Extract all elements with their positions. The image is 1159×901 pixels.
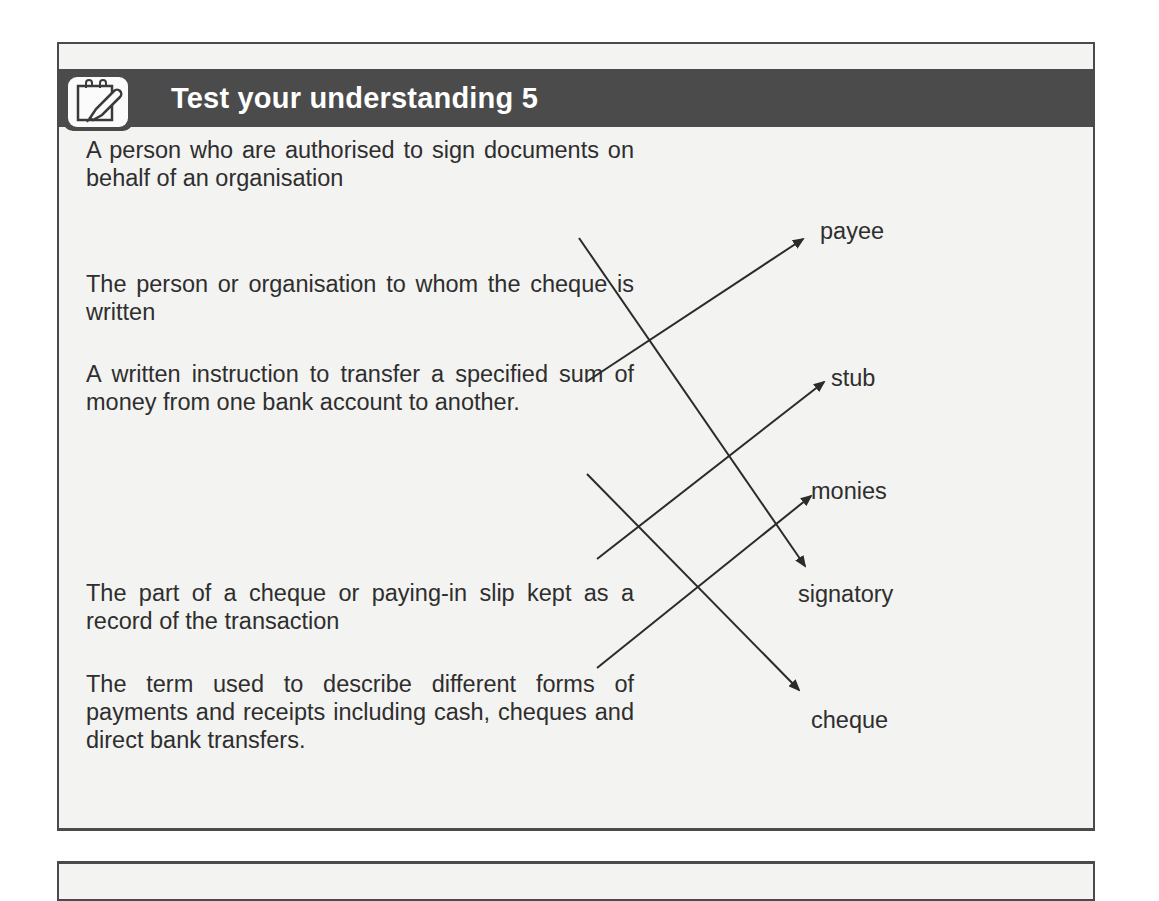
exercise-panel: Test your understanding 5 A person who a…	[57, 42, 1095, 831]
arrow-cheque	[587, 474, 799, 690]
matching-arrows	[59, 44, 1097, 833]
arrow-payee	[586, 239, 803, 382]
arrow-monies	[597, 496, 811, 668]
next-panel	[57, 861, 1095, 901]
arrow-signatory	[579, 238, 805, 566]
arrow-stub	[597, 382, 824, 559]
